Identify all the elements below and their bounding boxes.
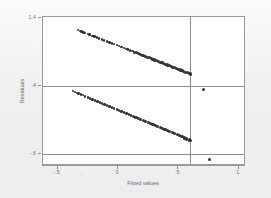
y-tick-mark xyxy=(38,85,41,86)
plot-canvas xyxy=(43,17,244,164)
chart-screenshot: -.50.511.4.4-.6 Fitted values Residuals xyxy=(0,0,271,198)
data-point xyxy=(189,139,192,142)
data-point xyxy=(189,72,192,75)
x-axis-line xyxy=(42,165,245,166)
y-tick-mark xyxy=(38,153,41,154)
x-tick-label: -.5 xyxy=(53,169,59,175)
plot-area xyxy=(42,16,245,165)
reference-line-horizontal-1 xyxy=(43,154,244,155)
data-point xyxy=(202,88,205,91)
data-point xyxy=(208,158,211,161)
x-tick-label: 0 xyxy=(115,169,118,175)
y-axis-title: Residuals xyxy=(19,79,25,104)
y-tick-label: 1.4 xyxy=(20,14,36,20)
x-tick-label: 1 xyxy=(236,169,239,175)
data-point xyxy=(103,39,105,41)
y-tick-label: -.6 xyxy=(20,150,36,156)
x-tick-label: .5 xyxy=(175,169,180,175)
x-axis-title: Fitted values xyxy=(127,180,159,186)
y-tick-mark xyxy=(38,17,41,18)
reference-line-horizontal-0 xyxy=(43,86,244,87)
